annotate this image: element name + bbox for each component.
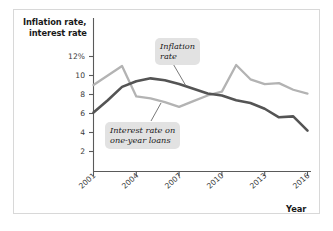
y-tick-label-4: 4 bbox=[59, 128, 85, 137]
callout-interest-rate: Interest rate on one-year loans bbox=[105, 122, 180, 149]
y-axis-title-line1: Inflation rate, bbox=[23, 17, 86, 27]
x-axis-ticks bbox=[94, 172, 308, 177]
y-axis-ticks bbox=[89, 57, 94, 152]
figure-container: Inflation rate, interest rate 12% 10 8 6… bbox=[0, 0, 333, 231]
x-axis-title: Year bbox=[286, 204, 306, 215]
axes bbox=[89, 18, 311, 176]
y-axis-title: Inflation rate, interest rate bbox=[23, 17, 87, 38]
y-tick-label-12: 12% bbox=[59, 52, 85, 61]
callout-inflation-line2: rate bbox=[160, 51, 195, 61]
y-tick-label-2: 2 bbox=[59, 147, 85, 156]
y-tick-label-10: 10 bbox=[59, 71, 85, 80]
y-tick-label-6: 6 bbox=[59, 109, 85, 118]
callout-leader-lines bbox=[151, 62, 186, 121]
y-tick-label-8: 8 bbox=[59, 90, 85, 99]
callout-inflation-line1: Inflation bbox=[160, 41, 195, 51]
callout-interest-line2: one-year loans bbox=[110, 135, 175, 145]
callout-interest-line1: Interest rate on bbox=[110, 125, 175, 135]
y-axis-title-line2: interest rate bbox=[23, 28, 87, 39]
callout-inflation-rate: Inflation rate bbox=[155, 38, 200, 65]
data-series bbox=[94, 65, 308, 131]
leader-line-interest bbox=[151, 103, 161, 121]
